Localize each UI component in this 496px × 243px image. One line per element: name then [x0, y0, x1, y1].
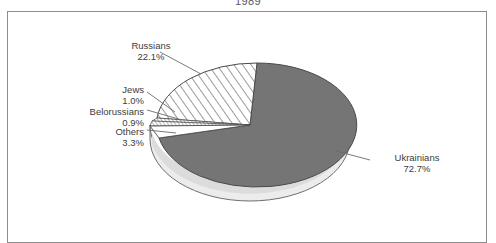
- slice-label-others: Others 3.3%: [74, 126, 144, 148]
- slice-label-ukrainians-percent: 72.7%: [372, 163, 462, 174]
- slice-label-russians-category: Russians: [118, 40, 184, 51]
- slice-label-jews-category: Jews: [92, 84, 144, 95]
- slice-label-jews: Jews 1.0%: [92, 84, 144, 106]
- slice-label-belorussians: Belorussians 0.9%: [34, 106, 144, 128]
- slice-label-ukrainians-category: Ukrainians: [372, 152, 462, 163]
- slice-label-others-percent: 3.3%: [74, 137, 144, 148]
- slice-label-russians: Russians 22.1%: [118, 40, 184, 62]
- slice-label-russians-percent: 22.1%: [118, 51, 184, 62]
- slice-label-belorussians-category: Belorussians: [34, 106, 144, 117]
- pie-slice-russians: [157, 63, 257, 125]
- slice-label-others-category: Others: [74, 126, 144, 137]
- slice-label-ukrainians: Ukrainians 72.7%: [372, 152, 462, 174]
- slice-label-jews-percent: 1.0%: [92, 95, 144, 106]
